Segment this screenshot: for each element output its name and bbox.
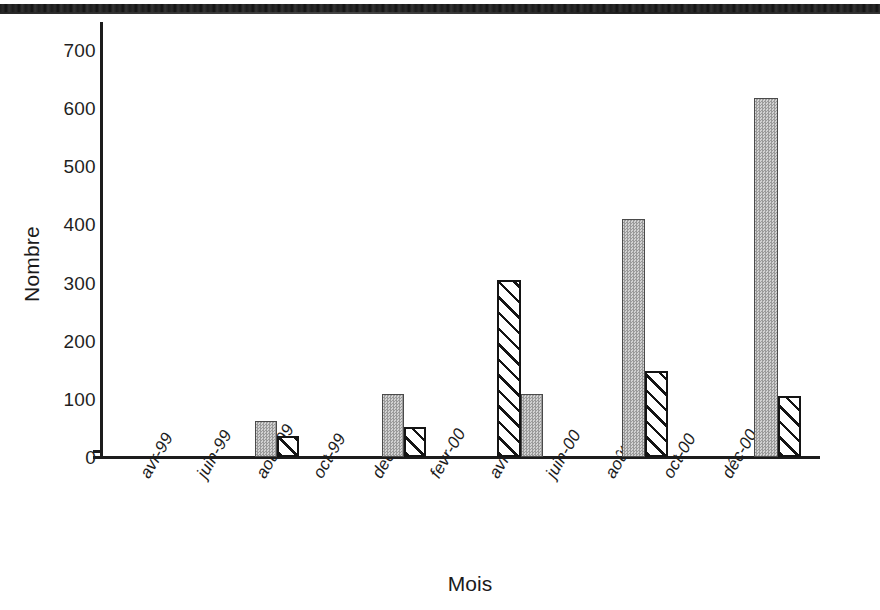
- bar-solid: [382, 394, 404, 457]
- bar-hatch: [645, 371, 668, 457]
- bar-solid: [255, 421, 277, 457]
- bar-hatch: [277, 436, 299, 458]
- bar-solid: [754, 98, 778, 457]
- bar-hatch: [778, 396, 801, 457]
- bar-hatch: [404, 427, 426, 457]
- bar-hatch: [497, 280, 521, 457]
- bar-solid: [521, 394, 543, 457]
- bar-chart: 0100200300400500600700 Nombre Mois avr-9…: [0, 0, 880, 610]
- bar-solid: [622, 219, 645, 457]
- plot-area: [0, 0, 880, 610]
